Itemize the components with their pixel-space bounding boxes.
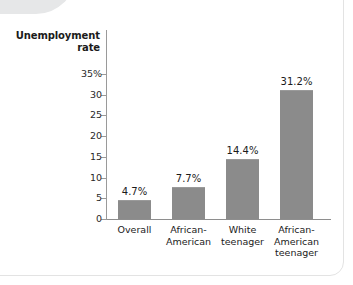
y-tick-label-5: 5 [60,193,102,203]
category-label-african-american-teenager-line-2: American [268,236,325,248]
bar-african-american[interactable] [172,187,205,219]
y-tick-label-35: 35% [60,69,102,79]
bar-value-african-american: 7.7% [164,173,213,184]
category-label-overall: Overall [106,224,163,236]
category-label-african-american-line-2: American [160,236,217,248]
category-label-white-teenager: White teenager [214,224,271,247]
y-axis-title-line-2: rate [6,42,100,54]
y-axis-title-line-1: Unemployment [6,30,100,42]
bar-value-white-teenager: 14.4% [218,145,267,156]
category-label-overall-line-1: Overall [106,224,163,236]
y-tick-label-10: 10 [60,173,102,183]
y-axis-title: Unemployment rate [6,30,100,54]
bar-overall[interactable] [118,200,151,219]
category-label-african-american-line-1: African- [160,224,217,236]
category-label-african-american-teenager-line-3: teenager [268,247,325,259]
figure-card: Unemployment rate 35% 30 25 20 15 10 5 0… [0,0,353,285]
category-label-african-american-teenager-line-1: African- [268,224,325,236]
category-label-african-american: African- American [160,224,217,247]
category-label-white-teenager-line-1: White [214,224,271,236]
y-tick-label-15: 15 [60,152,102,162]
bar-white-teenager[interactable] [226,159,259,219]
bar-chart: Unemployment rate 35% 30 25 20 15 10 5 0… [0,0,353,285]
y-tick-label-30: 30 [60,90,102,100]
y-tick-label-20: 20 [60,131,102,141]
x-axis-line [106,219,331,220]
bar-value-african-american-teenager: 31.2% [272,76,321,87]
y-axis-line [106,30,107,220]
bar-african-american-teenager[interactable] [280,90,313,219]
y-tick-label-25: 25 [60,110,102,120]
bar-value-overall: 4.7% [110,186,159,197]
category-label-white-teenager-line-2: teenager [214,236,271,248]
category-label-african-american-teenager: African- American teenager [268,224,325,259]
y-tick-label-0: 0 [60,214,102,224]
